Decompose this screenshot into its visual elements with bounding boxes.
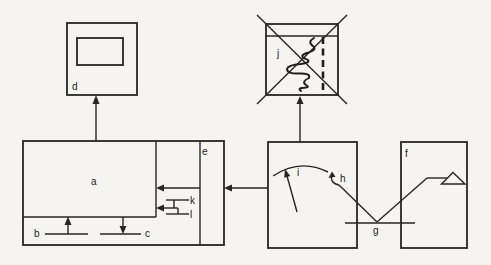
meter-needle-head — [284, 169, 290, 178]
recorded-signal-trace — [287, 38, 315, 91]
label-e: e — [202, 146, 208, 157]
arrow-meter-to-main-head — [224, 185, 232, 192]
diagram-strokes — [23, 15, 467, 248]
arrow-c-down-head — [120, 226, 127, 234]
label-d: d — [72, 81, 78, 92]
diagram-figure: a b c d e f g h i j k l — [0, 0, 491, 265]
arrow-kl-to-a-head — [156, 205, 164, 212]
meter-scale-arc — [273, 166, 328, 176]
diagram-canvas: a b c d e f g h i j k l — [0, 0, 491, 265]
label-b: b — [34, 228, 40, 239]
light-path-left-arm — [339, 185, 377, 222]
diagram-labels: a b c d e f g h i j k l — [34, 48, 408, 239]
label-j: j — [276, 48, 279, 59]
source-unit-box — [401, 142, 467, 248]
label-f: f — [405, 148, 408, 159]
label-i: i — [297, 167, 299, 178]
meter-needle — [287, 176, 297, 212]
light-path-right-arm — [377, 178, 427, 222]
label-h: h — [340, 173, 346, 184]
label-a: a — [91, 176, 97, 187]
label-k: k — [190, 195, 196, 206]
meter-unit-box — [268, 142, 357, 248]
display-screen — [77, 38, 123, 65]
label-c: c — [145, 228, 150, 239]
label-g: g — [373, 225, 379, 236]
arrow-e-to-a-head — [156, 185, 164, 192]
h-rotation-arrow-head — [329, 172, 336, 179]
arrow-to-recorder-head — [297, 96, 304, 104]
arrow-b-up-head — [65, 217, 72, 226]
arrow-to-display-head — [93, 95, 100, 104]
label-l: l — [190, 209, 192, 220]
